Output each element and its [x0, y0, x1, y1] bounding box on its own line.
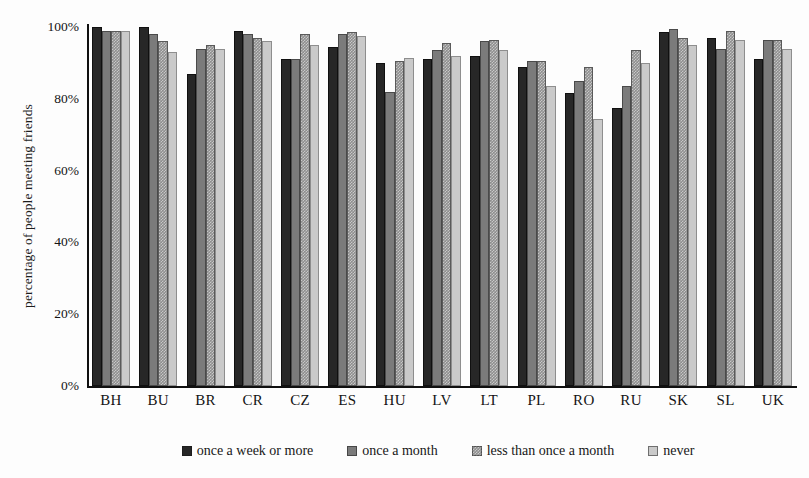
x-tick-cz: CZ [281, 392, 319, 418]
bar-bh-series-1[interactable] [102, 31, 112, 386]
legend-item-0[interactable]: once a week or more [182, 443, 314, 459]
bar-cr-series-2[interactable] [253, 38, 263, 386]
bar-es-series-1[interactable] [338, 34, 348, 386]
bar-br-series-3[interactable] [215, 49, 225, 386]
bar-pl-series-1[interactable] [527, 61, 537, 386]
bar-br-series-1[interactable] [196, 49, 206, 386]
legend-item-2[interactable]: less than once a month [472, 443, 615, 459]
bar-sl-series-3[interactable] [735, 40, 745, 386]
x-tick-lv: LV [423, 392, 461, 418]
bar-group-bh [92, 27, 130, 386]
bar-lv-series-0[interactable] [423, 59, 433, 386]
y-tick-40: 40% [54, 234, 79, 250]
bar-group-es [328, 27, 366, 386]
bar-bh-series-3[interactable] [121, 31, 131, 386]
x-axis-tick-labels: BHBUBRCRCZESHULVLTPLRORUSKSLUK [88, 392, 796, 418]
bar-ru-series-3[interactable] [641, 63, 651, 386]
bar-group-cr [234, 27, 272, 386]
bar-pl-series-3[interactable] [546, 86, 556, 386]
bar-group-lt [470, 27, 508, 386]
bar-group-sk [659, 27, 697, 386]
bar-cz-series-3[interactable] [310, 45, 320, 386]
bar-bu-series-3[interactable] [168, 52, 178, 386]
bar-cr-series-1[interactable] [243, 34, 253, 386]
y-tick-60: 60% [54, 163, 79, 179]
bar-sl-series-0[interactable] [707, 38, 717, 386]
x-tick-br: BR [187, 392, 225, 418]
y-axis-title: percentage of people meeting friends [20, 26, 36, 386]
bar-ro-series-0[interactable] [565, 93, 575, 386]
bar-lt-series-1[interactable] [480, 41, 490, 386]
bar-sk-series-0[interactable] [659, 32, 669, 386]
bar-pl-series-0[interactable] [518, 67, 528, 387]
bar-lv-series-1[interactable] [432, 50, 442, 386]
bar-uk-series-1[interactable] [763, 40, 773, 386]
bar-bu-series-0[interactable] [139, 27, 149, 386]
bar-br-series-0[interactable] [187, 74, 197, 386]
bar-chart: percentage of people meeting friends 100… [0, 0, 809, 478]
bar-bh-series-2[interactable] [111, 31, 121, 386]
bar-ro-series-1[interactable] [574, 81, 584, 386]
bar-lt-series-2[interactable] [489, 40, 499, 386]
bar-cz-series-0[interactable] [281, 59, 291, 386]
y-tick-0: 0% [61, 378, 79, 394]
bar-uk-series-3[interactable] [782, 49, 792, 386]
bar-ru-series-0[interactable] [612, 108, 622, 386]
bar-uk-series-0[interactable] [754, 59, 764, 386]
bar-sk-series-2[interactable] [678, 38, 688, 386]
bar-hu-series-2[interactable] [395, 61, 405, 386]
bar-lv-series-2[interactable] [442, 43, 452, 386]
legend-swatch-icon-1 [347, 446, 357, 456]
bar-group-bu [139, 27, 177, 386]
bar-groups [88, 27, 796, 386]
bar-group-uk [754, 27, 792, 386]
x-tick-hu: HU [376, 392, 414, 418]
bar-cz-series-2[interactable] [300, 34, 310, 386]
bar-br-series-2[interactable] [206, 45, 216, 386]
bar-group-sl [707, 27, 745, 386]
bar-lv-series-3[interactable] [451, 56, 461, 386]
bar-bu-series-1[interactable] [149, 34, 159, 386]
bar-es-series-3[interactable] [357, 36, 367, 386]
y-tick-80: 80% [54, 91, 79, 107]
bar-bu-series-2[interactable] [158, 41, 168, 386]
legend-item-1[interactable]: once a month [347, 443, 437, 459]
x-tick-cr: CR [234, 392, 272, 418]
plot-area: 100%80%60%40%20%0% [88, 27, 796, 386]
bar-ro-series-3[interactable] [593, 119, 603, 386]
bar-hu-series-1[interactable] [385, 92, 395, 386]
legend-swatch-icon-3 [648, 446, 658, 456]
bar-group-cz [281, 27, 319, 386]
x-tick-ru: RU [612, 392, 650, 418]
y-tick-100: 100% [48, 19, 80, 35]
bar-sk-series-3[interactable] [688, 45, 698, 386]
bar-ru-series-1[interactable] [622, 86, 632, 386]
bar-cr-series-3[interactable] [262, 41, 272, 386]
bar-group-lv [423, 27, 461, 386]
legend-swatch-icon-0 [182, 446, 192, 456]
bar-lt-series-0[interactable] [470, 56, 480, 386]
bar-cr-series-0[interactable] [234, 31, 244, 386]
bar-group-pl [518, 27, 556, 386]
bar-sl-series-2[interactable] [726, 31, 736, 386]
bar-uk-series-2[interactable] [773, 40, 783, 386]
bar-es-series-2[interactable] [347, 32, 357, 386]
legend-label-2: less than once a month [487, 443, 615, 459]
legend-item-3[interactable]: never [648, 443, 694, 459]
bar-ru-series-2[interactable] [631, 50, 641, 386]
x-tick-bu: BU [139, 392, 177, 418]
bar-lt-series-3[interactable] [499, 50, 509, 386]
bar-group-ro [565, 27, 603, 386]
bar-ro-series-2[interactable] [584, 67, 594, 387]
bar-bh-series-0[interactable] [92, 27, 102, 386]
bar-group-ru [612, 27, 650, 386]
bar-pl-series-2[interactable] [537, 61, 547, 386]
bar-hu-series-3[interactable] [404, 58, 414, 386]
bar-sl-series-1[interactable] [716, 49, 726, 386]
chart-legend: once a week or moreonce a monthless than… [88, 443, 788, 459]
bar-hu-series-0[interactable] [376, 63, 386, 386]
bar-es-series-0[interactable] [328, 47, 338, 386]
bar-sk-series-1[interactable] [669, 29, 679, 386]
bar-cz-series-1[interactable] [291, 59, 301, 386]
x-tick-sl: SL [707, 392, 745, 418]
